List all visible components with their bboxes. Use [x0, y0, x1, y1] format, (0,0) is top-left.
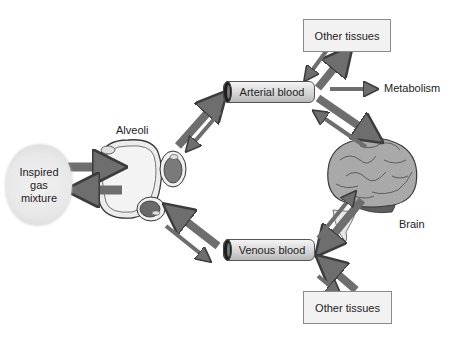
other-tissues-bottom-node: Other tissues	[303, 291, 392, 324]
arrow-venous-to-tissues-bottom	[318, 276, 336, 291]
alveoli-illustration	[97, 140, 186, 221]
inspired-gas-line-3: mixture	[19, 192, 58, 205]
inspired-gas-line-1: Inspired	[19, 166, 58, 179]
other-tissues-top-label: Other tissues	[315, 30, 380, 42]
capillary-upper	[160, 151, 186, 187]
other-tissues-top-node: Other tissues	[303, 19, 391, 52]
other-tissues-bottom-label: Other tissues	[315, 302, 380, 314]
arrow-arterial-to-tissues-top	[318, 56, 344, 88]
arterial-blood-node: Arterial blood	[223, 81, 315, 103]
brain-label: Brain	[399, 218, 425, 230]
arrow-arterial-to-brain	[318, 98, 372, 135]
inspired-gas-mixture-node: Inspired gas mixture	[6, 145, 72, 225]
inspired-gas-line-2: gas	[19, 179, 58, 192]
alveoli-label: Alveoli	[116, 124, 148, 136]
arrow-venous-to-alveoli	[174, 212, 218, 246]
tube-end-icon	[223, 81, 232, 103]
venous-blood-node: Venous blood	[223, 239, 315, 261]
tube-end-icon	[223, 239, 232, 261]
venous-blood-label: Venous blood	[239, 244, 306, 256]
metabolism-label: Metabolism	[384, 82, 440, 94]
capillary-lower	[137, 197, 165, 221]
arterial-blood-label: Arterial blood	[240, 86, 305, 98]
